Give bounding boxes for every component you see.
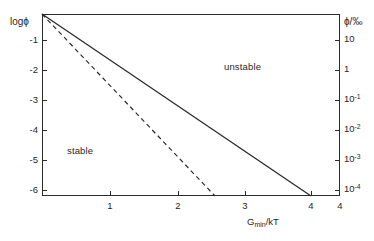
tick-label-left-5: -5	[12, 155, 38, 165]
tick-right-5	[335, 160, 340, 161]
tick-label-right-1: 10	[344, 34, 355, 44]
tick-label-right-4-mantissa: 10	[344, 123, 355, 134]
tick-left-3	[42, 100, 47, 101]
tick-bottom-1	[110, 191, 111, 196]
tick-label-left-4: -4	[12, 125, 38, 135]
tick-left-5	[42, 160, 47, 161]
tick-label-left-1: -1	[12, 35, 38, 45]
tick-left-1	[42, 40, 47, 41]
tick-label-right-2: 1	[344, 64, 349, 74]
tick-bottom-2	[178, 191, 179, 196]
left-axis-title: logϕ	[10, 16, 29, 27]
tick-left-6	[42, 190, 47, 191]
solid-boundary-line	[42, 14, 311, 196]
tick-label-right-6-mantissa: 10	[344, 183, 355, 194]
tick-label-right-3-exponent: -1	[355, 93, 361, 100]
tick-right-2	[335, 70, 340, 71]
plot-curves	[42, 14, 340, 196]
tick-right-1	[335, 40, 340, 41]
tick-bottom-4	[311, 191, 312, 196]
tick-label-bottom-3: 3	[235, 201, 255, 211]
tick-label-right-3-mantissa: 10	[344, 93, 355, 104]
tick-label-left-2: -2	[12, 65, 38, 75]
tick-label-bottom-4: 4	[301, 201, 321, 211]
tick-bottom-3	[245, 191, 246, 196]
right-axis-title: ϕ/‰	[344, 16, 362, 27]
tick-label-right-5-mantissa: 10	[344, 153, 355, 164]
tick-label-right-5: 10-3	[344, 154, 361, 164]
stability-diagram-figure: logϕ ϕ/‰ Gmin/kT -1 -2 -3 -4 -5 -6 10 1 …	[0, 0, 374, 241]
x-axis-title: Gmin/kT	[247, 216, 279, 228]
tick-label-right-4: 10-2	[344, 124, 361, 134]
tick-label-right-5-exponent: -3	[355, 153, 361, 160]
tick-label-right-1-mantissa: 10	[344, 33, 355, 44]
tick-label-bottom-1: 1	[100, 201, 120, 211]
dashed-boundary-line	[42, 14, 215, 196]
x-axis-title-rest: /kT	[266, 216, 279, 227]
tick-label-bottom-2: 2	[168, 201, 188, 211]
tick-label-right-4-exponent: -2	[355, 123, 361, 130]
tick-right-4	[335, 130, 340, 131]
tick-left-2	[42, 70, 47, 71]
tick-right-6	[335, 190, 340, 191]
tick-right-3	[335, 100, 340, 101]
x-axis-title-subscript: min	[254, 221, 265, 228]
right-axis-title-unit: ‰	[352, 16, 362, 27]
region-label-stable: stable	[67, 145, 93, 156]
tick-label-right-3: 10-1	[344, 94, 361, 104]
tick-label-right-2-mantissa: 1	[344, 63, 349, 74]
tick-left-4	[42, 130, 47, 131]
tick-label-left-6: -6	[12, 185, 38, 195]
region-label-unstable: unstable	[224, 61, 261, 72]
tick-label-bottom-axis-end: 4	[330, 201, 350, 211]
tick-label-right-6-exponent: -4	[355, 183, 361, 190]
tick-label-right-6: 10-4	[344, 184, 361, 194]
tick-label-left-3: -3	[12, 95, 38, 105]
